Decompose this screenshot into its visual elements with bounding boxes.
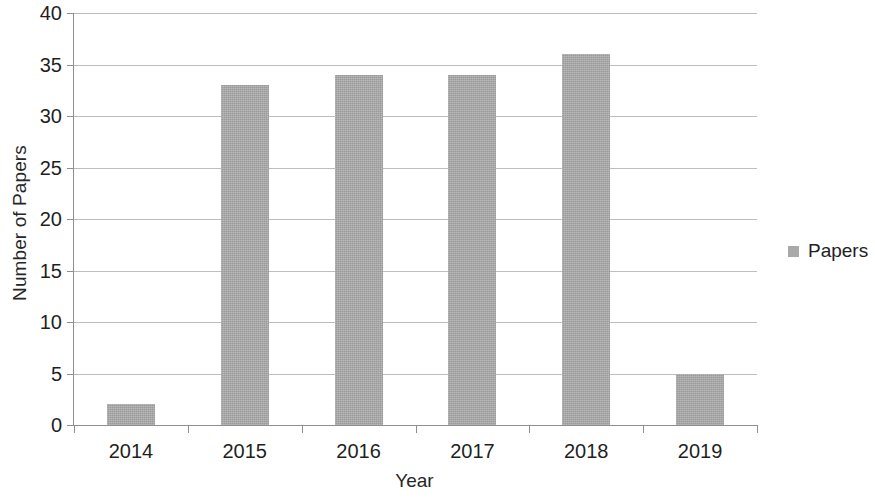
- y-tick-mark: [67, 168, 74, 169]
- y-tick-label: 35: [40, 53, 62, 76]
- bar-slot: [188, 13, 302, 425]
- x-tick-label: 2019: [645, 440, 755, 463]
- x-tick-label: 2016: [304, 440, 414, 463]
- bar-slot: [529, 13, 643, 425]
- y-tick-mark: [67, 374, 74, 375]
- y-axis-title: Number of Papers: [9, 123, 31, 323]
- y-tick-label: 40: [40, 2, 62, 25]
- bar[interactable]: [107, 404, 155, 425]
- bar[interactable]: [221, 85, 269, 425]
- y-tick-label: 0: [51, 414, 62, 437]
- x-tick-label: 2018: [531, 440, 641, 463]
- y-tick-mark: [67, 13, 74, 14]
- bars: [74, 13, 757, 425]
- x-tick-label: 2015: [190, 440, 300, 463]
- y-tick-mark: [67, 219, 74, 220]
- bar[interactable]: [676, 374, 724, 426]
- legend: Papers: [788, 240, 868, 262]
- x-tick-mark: [757, 425, 758, 433]
- y-tick-label: 15: [40, 259, 62, 282]
- x-tick-mark: [416, 425, 417, 433]
- bar[interactable]: [448, 75, 496, 425]
- legend-swatch-icon: [788, 246, 799, 257]
- y-tick-label: 10: [40, 311, 62, 334]
- bar-slot: [302, 13, 416, 425]
- bar-slot: [74, 13, 188, 425]
- plot-area: 0510152025303540 20142015201620172018201…: [73, 13, 757, 426]
- x-tick-label: 2014: [76, 440, 186, 463]
- x-tick-mark: [529, 425, 530, 433]
- bar-slot: [643, 13, 757, 425]
- bar-chart: Number of Papers 0510152025303540 201420…: [0, 0, 875, 500]
- y-tick-mark: [67, 271, 74, 272]
- y-tick-mark: [67, 425, 74, 426]
- y-tick-label: 5: [51, 362, 62, 385]
- legend-item[interactable]: Papers: [788, 240, 868, 262]
- bar[interactable]: [335, 75, 383, 425]
- bar-slot: [416, 13, 530, 425]
- x-tick-mark: [188, 425, 189, 433]
- x-tick-mark: [643, 425, 644, 433]
- y-tick-label: 30: [40, 105, 62, 128]
- y-tick-mark: [67, 65, 74, 66]
- x-tick-mark: [302, 425, 303, 433]
- y-tick-label: 25: [40, 156, 62, 179]
- bar[interactable]: [562, 54, 610, 425]
- y-tick-mark: [67, 322, 74, 323]
- y-tick-mark: [67, 116, 74, 117]
- legend-label: Papers: [808, 240, 868, 262]
- x-axis-title: Year: [73, 470, 756, 492]
- x-tick-label: 2017: [417, 440, 527, 463]
- y-tick-label: 20: [40, 208, 62, 231]
- x-tick-mark: [74, 425, 75, 433]
